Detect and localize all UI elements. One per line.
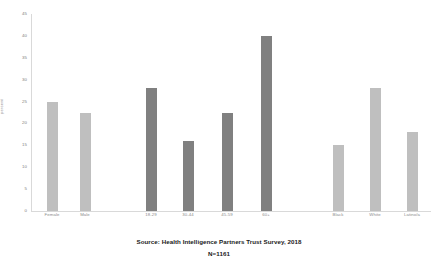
bar-chart: 051015202530354045 percent FemaleMale18-… [0, 0, 438, 267]
x-tick-label: Black [332, 213, 343, 217]
bar [261, 36, 272, 211]
bar [47, 102, 58, 211]
bar [80, 113, 91, 212]
x-tick-label: 60+ [262, 213, 270, 217]
y-tick-label: 30 [0, 77, 27, 81]
y-tick-label: 0 [0, 209, 27, 213]
x-tick-label: Male [80, 213, 90, 217]
bar [183, 141, 194, 211]
y-tick-label: 10 [0, 165, 27, 169]
y-tick-label: 20 [0, 121, 27, 125]
y-tick-label: 35 [0, 56, 27, 60]
x-tick-label: Female [45, 213, 60, 217]
y-tick-label: 25 [0, 99, 27, 103]
y-axis-tick-labels: 051015202530354045 [0, 14, 29, 211]
x-axis-category-labels: FemaleMale18-2930-4445-5960+BlackWhiteLa… [31, 213, 431, 227]
bars-container [31, 14, 431, 211]
chart-caption: Source: Health Intelligence Partners Tru… [0, 236, 438, 260]
x-tick-label: 30-44 [182, 213, 194, 217]
caption-sample-size: N=1161 [0, 248, 438, 260]
bar [222, 113, 233, 212]
caption-source: Source: Health Intelligence Partners Tru… [0, 236, 438, 248]
y-tick-label: 15 [0, 143, 27, 147]
bar [333, 145, 344, 211]
x-tick-label: Latino/a [404, 213, 420, 217]
y-axis-title: percent [0, 99, 4, 114]
x-tick-label: White [369, 213, 380, 217]
x-tick-label: 45-59 [221, 213, 233, 217]
bar [407, 132, 418, 211]
y-tick-label: 45 [0, 12, 27, 16]
x-tick-label: 18-29 [145, 213, 157, 217]
y-tick-label: 5 [0, 187, 27, 191]
bar [370, 88, 381, 211]
y-tick-label: 40 [0, 34, 27, 38]
bar [146, 88, 157, 211]
